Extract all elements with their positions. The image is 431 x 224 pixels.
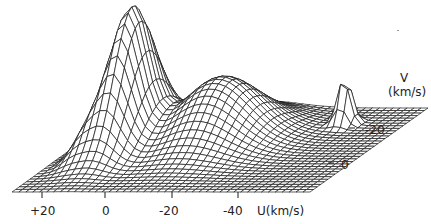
wireframe-mesh: [12, 6, 428, 192]
scan-speck: [397, 30, 399, 31]
y-axis-label-unit: (km/s): [388, 86, 426, 98]
x-tick-label: 0: [102, 205, 110, 217]
y-tick-label: 0: [341, 159, 349, 171]
x-tick-label: +20: [30, 205, 55, 217]
y-tick-label: -20: [365, 124, 385, 136]
surface-plot: [0, 0, 431, 224]
x-tick-label: -20: [159, 205, 179, 217]
y-axis-label: V: [400, 72, 408, 84]
x-tick-label: -40: [223, 205, 243, 217]
x-axis-label: U(km/s): [257, 205, 304, 217]
